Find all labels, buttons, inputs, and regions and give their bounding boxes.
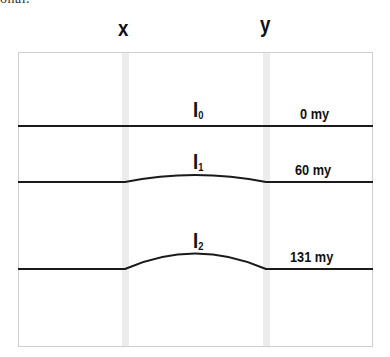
- band-y: [263, 53, 270, 347]
- band-x: [122, 53, 129, 347]
- layer-age-i1: 60 my: [295, 161, 331, 178]
- layer-age-i2: 131 my: [290, 248, 333, 265]
- layer-age-i0: 0 my: [300, 105, 329, 122]
- layer-label-i0: I0: [193, 97, 203, 123]
- diagram-canvas: [0, 0, 390, 357]
- layer-label-i1: I1: [193, 149, 203, 175]
- layer-label-i2: I2: [193, 228, 203, 254]
